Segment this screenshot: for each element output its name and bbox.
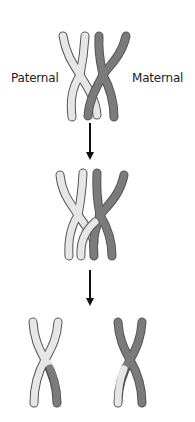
maternal-label: Maternal <box>132 71 183 85</box>
recombinant-paternal-chromosome <box>33 322 58 403</box>
stage-3-recombinant-chromosomes <box>33 322 142 403</box>
stage-1-homologous-pair <box>63 36 126 117</box>
paternal-label: Paternal <box>11 71 59 85</box>
stage-2-crossing-over <box>60 173 124 256</box>
crossing-over-diagram <box>0 0 195 422</box>
recombinant-maternal-chromosome <box>118 322 142 403</box>
